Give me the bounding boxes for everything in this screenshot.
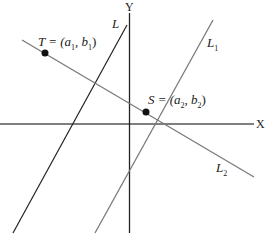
line-l1-label: L1 xyxy=(207,36,218,53)
point-t-label-text: T = (a xyxy=(38,34,71,49)
line-l2-subscript: 2 xyxy=(223,169,227,178)
point-t-mid: , b xyxy=(75,34,88,49)
point-t-label: T = (a1, b1) xyxy=(38,35,96,52)
point-s-mid: , b xyxy=(185,92,198,107)
point-s-label: S = (a2, b2) xyxy=(148,93,206,110)
line-l xyxy=(13,25,127,233)
line-l1-subscript: 1 xyxy=(214,44,218,53)
line-l-label-text: L xyxy=(112,16,119,31)
point-s-label-text: S = (a xyxy=(148,92,181,107)
line-l-label: L xyxy=(112,17,119,30)
y-axis-label: Y xyxy=(125,1,134,13)
point-t-end: ) xyxy=(92,34,96,49)
x-axis-label: X xyxy=(256,118,265,130)
line-l2-label: L2 xyxy=(216,161,227,178)
point-s-end: ) xyxy=(202,92,206,107)
